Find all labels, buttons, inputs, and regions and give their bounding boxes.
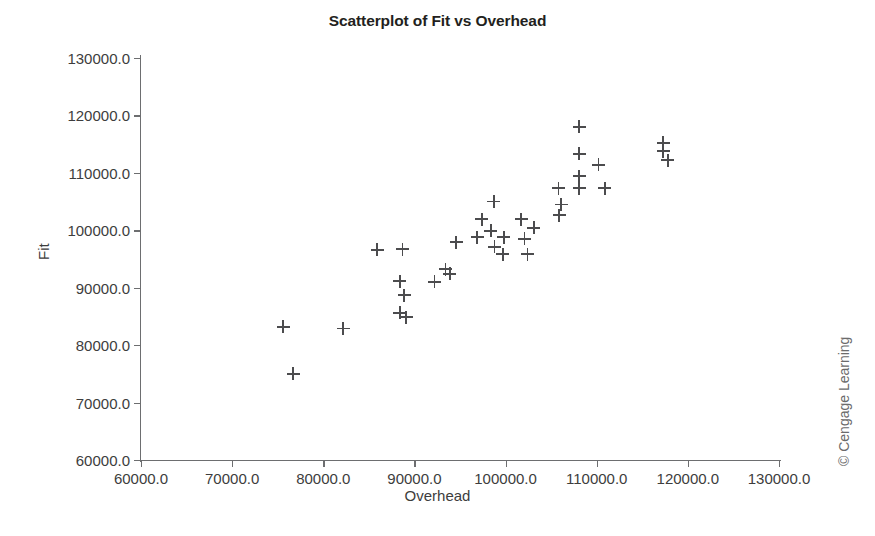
data-point — [552, 182, 565, 195]
x-axis-tick — [597, 460, 598, 467]
data-point — [657, 136, 670, 149]
y-axis-tick — [134, 288, 141, 289]
x-axis-tick-label: 80000.0 — [296, 470, 350, 487]
data-point — [573, 120, 586, 133]
data-point — [439, 263, 452, 276]
y-axis-tick-label: 120000.0 — [67, 107, 130, 124]
data-point — [573, 170, 586, 183]
data-point — [553, 209, 566, 222]
x-axis-tick — [688, 460, 689, 467]
data-point — [475, 213, 488, 226]
data-point — [496, 248, 509, 261]
data-point — [484, 224, 497, 237]
data-point — [555, 198, 568, 211]
plot-area: 60000.070000.080000.090000.0100000.01100… — [141, 58, 779, 460]
data-point — [277, 320, 290, 333]
x-axis-tick-label: 110000.0 — [566, 470, 627, 487]
x-axis-tick — [323, 460, 324, 467]
x-axis-tick — [506, 460, 507, 467]
x-axis-tick-label: 90000.0 — [387, 470, 441, 487]
data-point — [573, 147, 586, 160]
y-axis-tick-label: 110000.0 — [69, 164, 130, 181]
data-point — [515, 213, 528, 226]
y-axis-tick — [134, 345, 141, 346]
x-axis-tick-label: 100000.0 — [474, 470, 537, 487]
data-point — [487, 195, 500, 208]
data-point — [657, 145, 670, 158]
x-axis-tick-label: 120000.0 — [657, 470, 720, 487]
y-axis-tick — [134, 58, 141, 59]
data-point — [488, 240, 501, 253]
data-point — [428, 275, 441, 288]
x-axis-tick — [414, 460, 415, 467]
x-axis-tick — [141, 460, 142, 467]
scatterplot-figure: Scatterplot of Fit vs Overhead 60000.070… — [0, 0, 875, 536]
data-point — [497, 231, 510, 244]
y-axis-tick-label: 100000.0 — [67, 222, 130, 239]
x-axis-line — [140, 460, 781, 461]
y-axis-tick-label: 90000.0 — [76, 279, 130, 296]
x-axis-tick — [779, 460, 780, 467]
chart-title: Scatterplot of Fit vs Overhead — [0, 12, 875, 30]
data-point — [400, 311, 413, 324]
x-axis-tick-label: 60000.0 — [114, 470, 168, 487]
data-point — [573, 182, 586, 195]
data-point — [287, 367, 300, 380]
y-axis-tick — [134, 403, 141, 404]
data-point — [598, 182, 611, 195]
data-point — [450, 236, 463, 249]
y-axis-tick — [134, 460, 141, 461]
data-point — [393, 275, 406, 288]
data-point — [337, 322, 350, 335]
y-axis-tick-label: 80000.0 — [76, 337, 130, 354]
data-point — [371, 243, 384, 256]
data-point — [521, 248, 534, 261]
y-axis-tick — [134, 173, 141, 174]
data-point — [443, 267, 456, 280]
x-axis-title: Overhead — [0, 487, 875, 504]
data-point — [592, 158, 605, 171]
y-axis-tick — [134, 115, 141, 116]
data-point — [396, 243, 409, 256]
data-point — [393, 306, 406, 319]
y-axis-tick-label: 60000.0 — [76, 452, 130, 469]
data-point — [398, 289, 411, 302]
y-axis-tick — [134, 230, 141, 231]
y-axis-tick-label: 70000.0 — [76, 394, 130, 411]
data-point — [527, 221, 540, 234]
y-axis-title: Fit — [35, 243, 52, 260]
x-axis-tick-label: 130000.0 — [748, 470, 811, 487]
data-point — [518, 232, 531, 245]
x-axis-tick — [232, 460, 233, 467]
data-point — [661, 154, 674, 167]
x-axis-tick-label: 70000.0 — [205, 470, 259, 487]
copyright-credit: © Cengage Learning — [836, 337, 852, 466]
y-axis-tick-label: 130000.0 — [67, 50, 130, 67]
data-point — [471, 231, 484, 244]
